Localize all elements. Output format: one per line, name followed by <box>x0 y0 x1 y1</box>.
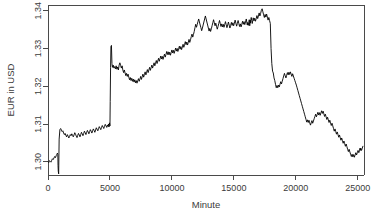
line-chart: 05000100001500020000250001.301.311.321.3… <box>0 0 372 224</box>
x-tick-label: 25000 <box>345 183 370 193</box>
chart-figure: 05000100001500020000250001.301.311.321.3… <box>0 0 372 224</box>
x-tick-label: 5000 <box>100 183 120 193</box>
tick-marks <box>43 11 358 180</box>
x-tick-label: 20000 <box>283 183 308 193</box>
y-tick-label: 1.30 <box>33 153 43 171</box>
x-tick-label: 15000 <box>221 183 246 193</box>
series-line-eur-in-usd <box>48 9 363 174</box>
y-axis-title: EUR in USD <box>5 63 16 116</box>
y-tick-label: 1.33 <box>33 40 43 58</box>
y-tick-label: 1.32 <box>33 77 43 95</box>
x-tick-label: 10000 <box>159 183 184 193</box>
x-tick-label: 0 <box>45 183 50 193</box>
y-tick-label: 1.31 <box>33 115 43 133</box>
x-axis-title: Minute <box>192 199 221 210</box>
y-tick-label: 1.34 <box>33 2 43 20</box>
